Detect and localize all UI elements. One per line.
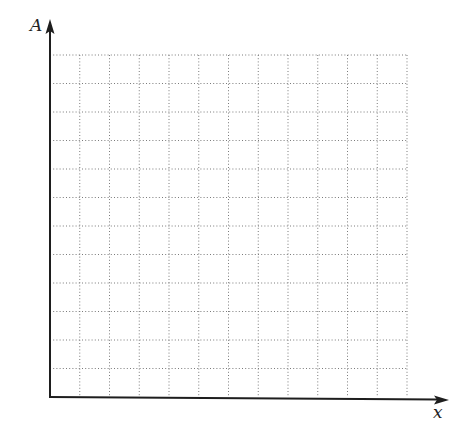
y-axis-label: A	[30, 17, 42, 34]
dotted-grid	[50, 55, 407, 397]
x-axis-label: x	[433, 404, 443, 421]
x-axis	[49, 397, 438, 400]
grid-graph	[0, 0, 473, 438]
